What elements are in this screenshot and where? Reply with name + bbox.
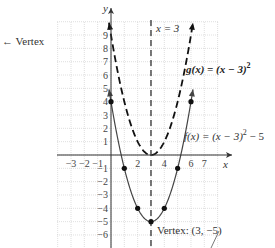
curve-arrow-icon (189, 23, 195, 30)
data-point (122, 166, 127, 171)
axes (57, 8, 232, 248)
y-tick-label: −6 (97, 229, 108, 240)
x-tick-label: −2 (79, 158, 90, 169)
y-tick-label: 3 (103, 110, 108, 121)
y-tick-label: −3 (97, 189, 108, 200)
y-tick-label: 4 (103, 96, 108, 107)
f-label-suffix: − 5 (247, 130, 265, 142)
data-point (175, 166, 180, 171)
y-tick-label: −2 (97, 176, 108, 187)
symmetry-line-label: x = 3 (155, 22, 180, 34)
data-point (188, 99, 193, 104)
y-tick-label: −4 (97, 203, 108, 214)
y-tick-label: −5 (97, 216, 108, 227)
curve-arrow-icon (107, 23, 113, 30)
data-point (108, 99, 113, 104)
y-tick-label: 7 (103, 56, 108, 67)
y-tick-label: 9 (103, 30, 108, 41)
g-label-exponent: 2 (247, 61, 251, 70)
y-tick-label: 5 (103, 83, 108, 94)
y-tick-label: −1 (97, 163, 108, 174)
x-tick-label: 4 (162, 158, 167, 169)
y-tick-label: 8 (103, 43, 108, 54)
x-tick-label: 2 (135, 158, 140, 169)
f-label-text: f(x) = (x − 3) (184, 130, 243, 143)
x-tick-label: −3 (66, 158, 77, 169)
y-tick-label: 1 (103, 136, 108, 147)
data-point (135, 206, 140, 211)
g-function-label: g(x) = (x − 3)2 (185, 61, 251, 76)
f-function-label: f(x) = (x − 3)2 − 5 (184, 128, 265, 143)
g-label-text: g(x) = (x − 3) (185, 63, 247, 76)
x-tick-label: 7 (202, 158, 207, 169)
parabola-graph: −3−2−12467987654321−1−2−3−4−5−6 ← Vertex… (0, 0, 275, 248)
vertex-arrow-label: ← Vertex (2, 35, 45, 47)
data-point (162, 206, 167, 211)
curve-arrow-icon (189, 89, 195, 96)
y-axis-label: y (102, 2, 108, 14)
x-tick-label: 6 (188, 158, 193, 169)
x-axis-label: x (222, 158, 228, 170)
y-tick-label: 2 (103, 123, 108, 134)
y-tick-label: 6 (103, 70, 108, 81)
vertex-label: Vertex: (3, −5) (157, 224, 222, 237)
data-point (148, 219, 153, 224)
curve-arrow-icon (107, 89, 113, 96)
